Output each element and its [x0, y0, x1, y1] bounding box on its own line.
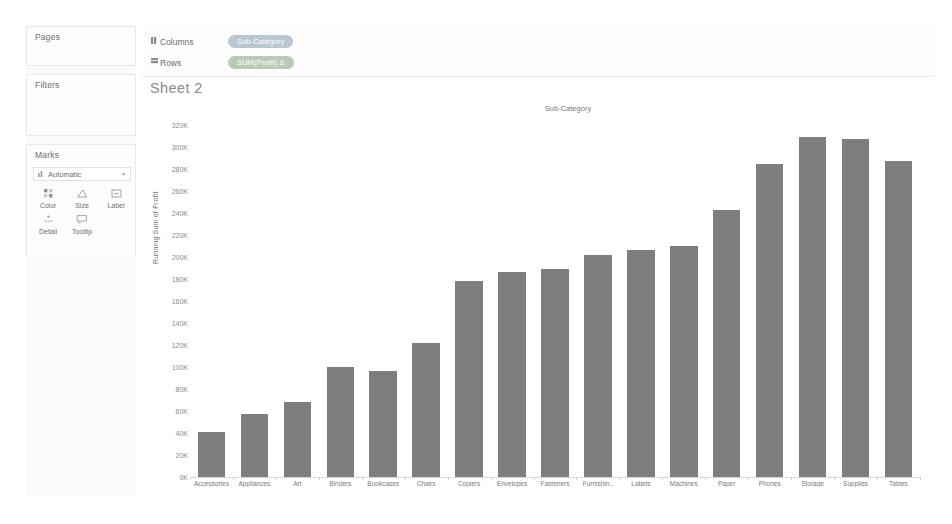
- x-axis-tick-label[interactable]: Chairs: [405, 480, 448, 487]
- bar-mark[interactable]: [284, 402, 311, 477]
- worksheet-panel: Columns Sub-Category Rows SUM(Profit) Δ …: [142, 26, 934, 496]
- marks-type-label: Automatic: [48, 170, 81, 179]
- pages-card-title: Pages: [27, 27, 135, 42]
- x-axis-labels: AccessoriesAppliancesArtBindersBookcases…: [190, 480, 920, 487]
- bar-mark[interactable]: [369, 371, 396, 477]
- bar-slot[interactable]: [576, 125, 619, 477]
- x-axis-tickmark: [877, 477, 878, 480]
- bar-mark[interactable]: [799, 137, 826, 477]
- x-axis-tick-label[interactable]: Furnishin..: [576, 480, 619, 487]
- marks-type-dropdown[interactable]: Automatic ▼: [33, 167, 131, 181]
- y-axis-tick-label: 200K: [172, 254, 188, 261]
- bar-slot[interactable]: [834, 125, 877, 477]
- x-axis-tick-label[interactable]: Labels: [619, 480, 662, 487]
- marks-size-label: Size: [65, 201, 99, 210]
- x-axis-tick-label[interactable]: Storage: [791, 480, 834, 487]
- sheet-title: Sheet 2: [150, 80, 203, 96]
- marks-tooltip-button[interactable]: Tooltip: [65, 212, 99, 236]
- bar-slot[interactable]: [405, 125, 448, 477]
- plot-area: [190, 125, 920, 477]
- detail-icon: [31, 212, 65, 227]
- bar-mark[interactable]: [198, 432, 225, 477]
- x-axis-tickmark: [576, 477, 577, 480]
- columns-shelf[interactable]: Columns Sub-Category: [142, 31, 934, 52]
- x-axis-tickmark: [619, 477, 620, 480]
- marks-size-button[interactable]: Size: [65, 186, 99, 210]
- x-axis-tick-label[interactable]: Paper: [705, 480, 748, 487]
- x-axis-tick-label[interactable]: Binders: [319, 480, 362, 487]
- marks-card[interactable]: Marks Automatic ▼: [26, 144, 136, 256]
- x-axis-tick-label[interactable]: Fasteners: [534, 480, 577, 487]
- marks-detail-button[interactable]: Detail: [31, 212, 65, 236]
- bar-slot[interactable]: [748, 125, 791, 477]
- bar-mark[interactable]: [327, 367, 354, 477]
- bar-mark[interactable]: [498, 272, 525, 477]
- bar-mark[interactable]: [541, 269, 568, 477]
- pill-sum-profit[interactable]: SUM(Profit) Δ: [228, 56, 294, 69]
- bar-slot[interactable]: [448, 125, 491, 477]
- bar-slot[interactable]: [233, 125, 276, 477]
- bar-mark[interactable]: [842, 139, 869, 477]
- x-axis-tick-label[interactable]: Copiers: [448, 480, 491, 487]
- bar-mark[interactable]: [584, 255, 611, 477]
- x-axis-tick-label[interactable]: Bookcases: [362, 480, 405, 487]
- rows-shelf-icon: [148, 58, 160, 67]
- x-axis-tick-label[interactable]: Machines: [662, 480, 705, 487]
- bar-mark[interactable]: [241, 414, 268, 477]
- y-axis-tick-label: 160K: [172, 298, 188, 305]
- x-axis-line: [190, 477, 920, 478]
- y-axis-tick-label: 140K: [172, 320, 188, 327]
- columns-shelf-icon: [148, 37, 160, 46]
- x-axis-tick-label[interactable]: Accessories: [190, 480, 233, 487]
- bar-slot[interactable]: [791, 125, 834, 477]
- marks-buttons: Color Size: [31, 186, 133, 238]
- x-axis-tick-label[interactable]: Appliances: [233, 480, 276, 487]
- bar-slot[interactable]: [319, 125, 362, 477]
- x-axis-tick-label[interactable]: Art: [276, 480, 319, 487]
- x-axis-tick-label[interactable]: Phones: [748, 480, 791, 487]
- bar-slot[interactable]: [190, 125, 233, 477]
- x-axis-tickmark: [190, 477, 191, 480]
- y-axis-tick-label: 260K: [172, 188, 188, 195]
- bar-slot[interactable]: [877, 125, 920, 477]
- column-field-header-text: Sub-Category: [545, 104, 591, 113]
- y-axis-tick-label: 320K: [172, 122, 188, 129]
- x-axis-tickmark: [405, 477, 406, 480]
- bar-mark[interactable]: [713, 210, 740, 477]
- tableau-worksheet-window: Pages Filters Marks Automatic ▼: [0, 0, 952, 524]
- x-axis-tick-label[interactable]: Envelopes: [491, 480, 534, 487]
- bar-slot[interactable]: [491, 125, 534, 477]
- bar-slot[interactable]: [705, 125, 748, 477]
- bar-mark[interactable]: [756, 164, 783, 478]
- pill-sub-category[interactable]: Sub-Category: [228, 35, 293, 48]
- marks-label-button[interactable]: Label: [99, 186, 133, 210]
- chevron-down-icon[interactable]: ▼: [121, 171, 126, 177]
- bar-slot[interactable]: [276, 125, 319, 477]
- pages-card[interactable]: Pages: [26, 26, 136, 66]
- bar-slot[interactable]: [534, 125, 577, 477]
- bar-mark[interactable]: [627, 250, 654, 477]
- x-axis-tick-label[interactable]: Supplies: [834, 480, 877, 487]
- bar-slot[interactable]: [662, 125, 705, 477]
- y-axis-tick-label: 300K: [172, 144, 188, 151]
- filters-card-title: Filters: [27, 75, 135, 90]
- x-axis-tick-label[interactable]: Tables: [877, 480, 920, 487]
- y-axis-tick-label: 120K: [172, 342, 188, 349]
- filters-card[interactable]: Filters: [26, 74, 136, 136]
- x-axis-tickmark: [705, 477, 706, 480]
- bar-mark[interactable]: [885, 161, 912, 477]
- marks-color-button[interactable]: Color: [31, 186, 65, 210]
- bar-slot[interactable]: [362, 125, 405, 477]
- bar-mark[interactable]: [455, 281, 482, 477]
- marks-sidebar: Pages Filters Marks Automatic ▼: [26, 26, 136, 496]
- y-axis-tick-label: 0K: [179, 474, 188, 481]
- x-axis-tickmark: [791, 477, 792, 480]
- y-axis-tick-label: 180K: [172, 276, 188, 283]
- rows-shelf[interactable]: Rows SUM(Profit) Δ: [142, 52, 934, 73]
- y-axis-tick-label: 280K: [172, 166, 188, 173]
- bar-mark[interactable]: [412, 343, 439, 477]
- bar-mark[interactable]: [670, 246, 697, 477]
- y-axis-tick-label: 40K: [176, 430, 188, 437]
- bar-mark-icon: [38, 170, 45, 178]
- bar-slot[interactable]: [619, 125, 662, 477]
